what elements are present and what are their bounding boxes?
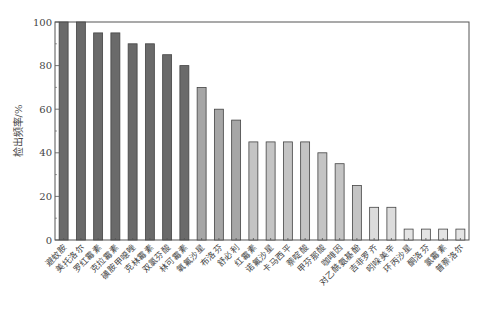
y-tick-label: 60 [39,104,52,115]
bar [214,109,223,240]
plot-area [55,22,469,240]
bar [370,207,379,240]
bar [94,33,103,240]
bar [59,22,68,240]
bar [145,44,154,240]
bar [76,22,85,240]
bar [180,66,189,240]
y-axis-label: 检出频率/% [12,105,24,158]
bar [128,44,137,240]
bar [111,33,120,240]
y-tick-label: 20 [39,191,52,202]
x-axis: 避蚊胺美托洛尔罗红霉素克拉霉素磺胺甲噁唑克林霉素双氯芬酸林可霉素氧氟沙星布洛芬舒… [43,238,466,288]
bar [249,142,258,240]
bar [352,186,361,241]
bar [283,142,292,240]
bar [197,87,206,240]
y-tick-label: 40 [39,147,52,158]
y-tick-label: 0 [46,235,52,246]
bar [266,142,275,240]
bar [335,164,344,240]
bar [163,55,172,240]
y-tick-label: 100 [33,17,52,28]
bar [232,120,241,240]
bar [387,207,396,240]
bar [318,153,327,240]
bar-chart: 020406080100 避蚊胺美托洛尔罗红霉素克拉霉素磺胺甲噁唑克林霉素双氯芬… [0,0,492,310]
bar [301,142,310,240]
y-tick-label: 80 [39,60,52,71]
